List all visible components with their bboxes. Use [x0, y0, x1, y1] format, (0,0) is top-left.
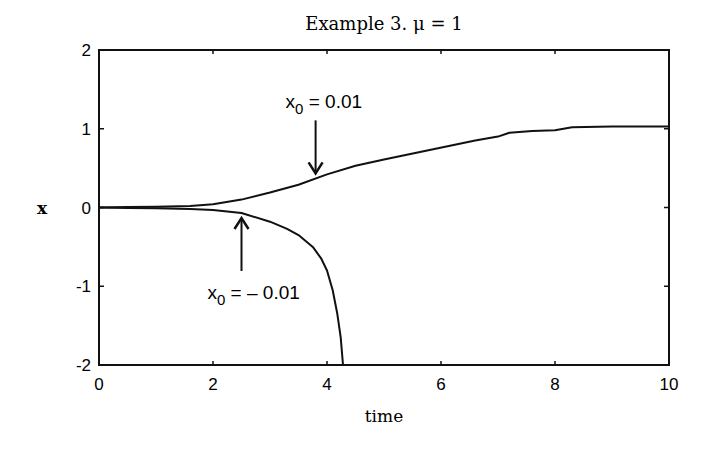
x-axis-label: time — [365, 406, 403, 426]
plot-frame — [99, 50, 669, 365]
y-tick-label: 2 — [82, 41, 91, 60]
y-tick-label: 0 — [82, 199, 91, 218]
x-tick-label: 4 — [322, 375, 331, 394]
annotations-group: x0 = 0.01x0 = – 0.01 — [208, 91, 363, 308]
series-line-x0-negative — [99, 208, 343, 366]
annotation-x0-positive: x0 = 0.01 — [286, 91, 362, 173]
series-group — [99, 126, 669, 365]
annotation-label: x0 = – 0.01 — [208, 282, 300, 308]
x-axis-ticks: 0246810 — [94, 50, 678, 394]
y-tick-label: -1 — [76, 277, 91, 296]
y-axis-label: x — [37, 198, 48, 218]
x-tick-label: 8 — [550, 375, 559, 394]
annotation-x0-negative: x0 = – 0.01 — [208, 218, 300, 308]
annotation-label: x0 = 0.01 — [286, 91, 362, 117]
x-tick-label: 10 — [660, 375, 679, 394]
chart-title: Example 3. μ = 1 — [305, 13, 462, 34]
y-tick-label: 1 — [82, 120, 91, 139]
series-line-x0-positive — [99, 126, 669, 207]
x-tick-label: 6 — [436, 375, 445, 394]
x-tick-label: 2 — [208, 375, 217, 394]
chart: Example 3. μ = 1 0246810 210-1-2 time x … — [0, 0, 715, 452]
y-tick-label: -2 — [76, 356, 91, 375]
x-tick-label: 0 — [94, 375, 103, 394]
